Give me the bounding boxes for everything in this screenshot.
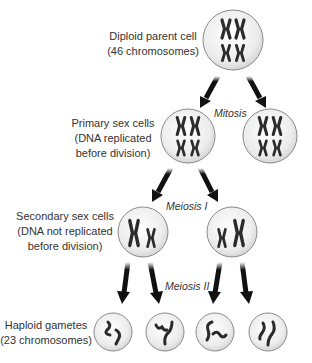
arrow-icon: [117, 262, 130, 304]
label-haploid-gametes: Haploid gametes (23 chromosomes): [0, 318, 92, 348]
cell-diploid-parent: [203, 10, 263, 70]
arrow-icon: [248, 76, 266, 108]
label-line: (46 chromosomes): [100, 44, 206, 59]
arrow-icon: [200, 76, 218, 108]
arrows-mitosis: [200, 76, 266, 108]
cell-secondary-left: [118, 207, 168, 257]
arrow-icon: [150, 262, 163, 304]
arrow-icon: [152, 168, 171, 202]
label-line: Primary sex cells: [60, 116, 166, 131]
label-line: (DNA not replicated: [6, 224, 124, 239]
process-label-mitosis: Mitosis: [214, 107, 247, 119]
cell-gamete-1: [94, 313, 132, 351]
label-line: (DNA replicated: [60, 131, 166, 146]
label-line: Secondary sex cells: [6, 209, 124, 224]
process-label-meiosis-1: Meiosis I: [166, 200, 207, 212]
cell-gamete-4: [249, 313, 287, 351]
arrows-meiosis-1: [152, 168, 218, 202]
label-diploid-parent: Diploid parent cell (46 chromosomes): [100, 29, 206, 59]
arrow-icon: [208, 262, 221, 304]
arrow-icon: [240, 262, 253, 304]
process-label-meiosis-2: Meiosis II: [165, 280, 209, 292]
cell-gamete-3: [196, 313, 234, 351]
cell-gamete-2: [146, 313, 184, 351]
label-line: Diploid parent cell: [100, 29, 206, 44]
label-line: before division): [60, 146, 166, 161]
cell-division-diagram: Diploid parent cell (46 chromosomes) Pri…: [0, 0, 312, 363]
label-line: (23 chromosomes): [0, 333, 92, 348]
cell-secondary-right: [207, 207, 257, 257]
label-line: Haploid gametes: [0, 318, 92, 333]
label-secondary-sex-cells: Secondary sex cells (DNA not replicated …: [6, 209, 124, 254]
cell-primary: [161, 109, 215, 163]
arrow-icon: [200, 168, 218, 202]
label-primary-sex-cells: Primary sex cells (DNA replicated before…: [60, 116, 166, 161]
label-line: before division): [6, 239, 124, 254]
cell-mitosis-daughter: [243, 109, 297, 163]
